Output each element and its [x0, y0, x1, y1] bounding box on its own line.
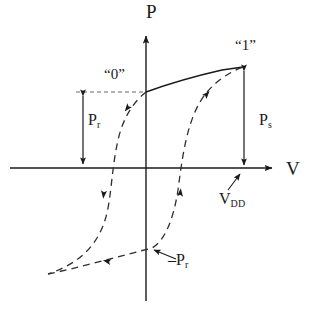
- hysteresis-plot-svg: [0, 0, 313, 313]
- direction-arrow-lower-left-icon: [100, 190, 107, 199]
- p-remanent-subscript: r: [97, 119, 101, 130]
- p-saturation-subscript: s: [268, 119, 272, 130]
- state-one-label: “1”: [235, 38, 256, 53]
- p-remanent-label: Pr: [88, 112, 100, 130]
- state-zero-label: “0”: [104, 67, 125, 82]
- p-axis-label: P: [146, 2, 157, 21]
- v-axis-label: V: [286, 159, 300, 178]
- saturation-branch-solid: [146, 67, 243, 92]
- vdd-leader-line: [228, 174, 240, 190]
- p-saturation-symbol: P: [259, 111, 268, 128]
- direction-arrow-upper-left-icon: [122, 103, 132, 113]
- leader-lines: [154, 174, 240, 259]
- neg-p-remanent-label: –Pr: [168, 252, 188, 270]
- hysteresis-figure: P V “1” “0” Pr Ps VDD –Pr: [0, 0, 313, 313]
- v-dd-label: VDD: [219, 191, 245, 209]
- v-dd-subscript: DD: [231, 198, 246, 209]
- neg-p-remanent-subscript: r: [185, 259, 189, 270]
- neg-p-remanent-minus-sign: –: [168, 251, 176, 268]
- v-dd-symbol: V: [219, 190, 231, 207]
- direction-arrowheads: [100, 89, 212, 265]
- neg-p-remanent-symbol: P: [176, 251, 185, 268]
- p-saturation-label: Ps: [259, 112, 272, 130]
- p-remanent-symbol: P: [88, 111, 97, 128]
- axes-group: [10, 36, 272, 301]
